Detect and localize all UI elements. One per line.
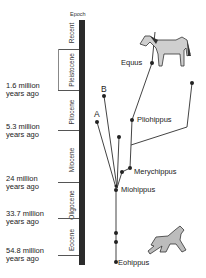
branch-label-b: B	[101, 84, 107, 94]
species-eohippus: Eohippus	[118, 258, 149, 267]
branch-label-a: A	[94, 109, 100, 119]
phylogenetic-tree	[0, 0, 206, 278]
species-pliohippus: Pliohippus	[137, 115, 172, 124]
modern-horse-icon	[140, 36, 191, 66]
species-equus: Equus	[121, 58, 142, 67]
species-merychippus: Merychippus	[134, 167, 177, 176]
species-miohippus: Miohippus	[121, 185, 155, 194]
eohippus-horse-icon	[148, 226, 186, 254]
